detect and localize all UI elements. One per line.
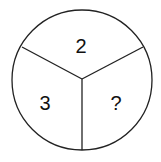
sector-top-label: 2 (75, 35, 86, 57)
divider-line-right (82, 47, 143, 79)
sector-bottom-left-label: 3 (39, 92, 50, 114)
divider-line-left (22, 47, 82, 79)
circle-diagram: 2 3 ? (0, 0, 161, 162)
sector-bottom-right-label: ? (110, 92, 121, 114)
